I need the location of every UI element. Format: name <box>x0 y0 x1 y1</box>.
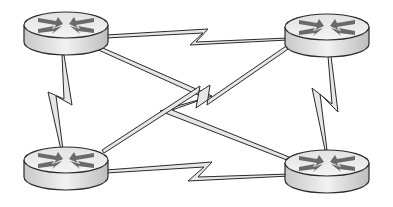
router-bottom-right[interactable] <box>285 150 369 193</box>
serial-link-diagonal-tr-bl <box>102 42 294 153</box>
router-top-left[interactable] <box>24 12 108 55</box>
serial-link-right <box>312 56 338 150</box>
router-icon <box>24 12 108 55</box>
router-icon <box>285 14 369 57</box>
serial-link-bottom <box>106 162 290 181</box>
serial-link-top <box>106 29 288 45</box>
router-icon <box>24 147 108 190</box>
router-top-right[interactable] <box>285 14 369 57</box>
network-diagram <box>0 0 393 207</box>
router-icon <box>285 150 369 193</box>
router-bottom-left[interactable] <box>24 147 108 190</box>
serial-link-left <box>48 55 72 150</box>
